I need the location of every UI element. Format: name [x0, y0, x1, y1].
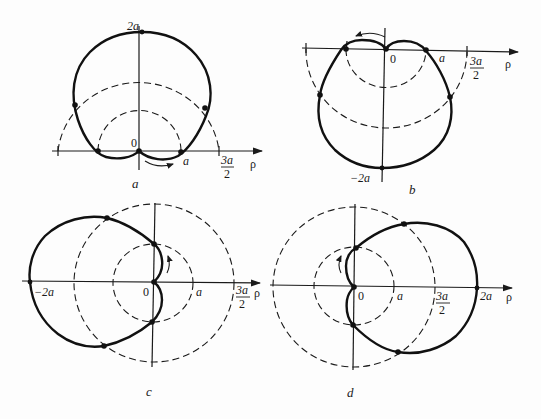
- a-label: a: [397, 289, 403, 303]
- rotation-arrow: [356, 33, 385, 37]
- a-label: a: [183, 154, 189, 168]
- intersection-dot: [95, 148, 101, 154]
- rotation-arrow: [339, 256, 341, 273]
- intersection-dot: [149, 319, 155, 325]
- three-halves-numerator: 3a: [220, 153, 233, 167]
- rotation-arrow: [145, 161, 173, 166]
- vertical-axis: [152, 203, 155, 367]
- origin-label: 0: [390, 52, 396, 66]
- top-label: 2a: [127, 19, 139, 33]
- intersection-dot: [447, 94, 453, 100]
- panel-caption: c: [146, 384, 152, 399]
- three-halves-numerator: 3a: [435, 289, 448, 303]
- intersection-dot: [395, 349, 401, 355]
- top-dot: [140, 30, 145, 35]
- three-halves-denominator: 2: [224, 167, 230, 181]
- inner-reference-circle: [346, 49, 426, 88]
- origin-label: 0: [358, 289, 364, 303]
- panel-caption: b: [409, 182, 416, 197]
- panel-c: 0 a −2a 3a 2 ρ c: [22, 203, 260, 399]
- rho-label: ρ: [250, 157, 256, 171]
- three-halves-denominator: 2: [239, 297, 245, 311]
- a-label: a: [196, 285, 202, 299]
- origin-label: 0: [131, 136, 137, 150]
- origin-dot: [383, 46, 389, 52]
- intersection-dot: [104, 215, 110, 221]
- left-dot: [28, 280, 33, 285]
- left-label: −2a: [34, 285, 54, 299]
- three-halves-denominator: 2: [473, 68, 479, 82]
- rho-label: ρ: [254, 286, 260, 300]
- origin-dot: [136, 148, 142, 154]
- cardioid-curve: [319, 40, 452, 168]
- three-halves-numerator: 3a: [235, 283, 248, 297]
- intersection-dot: [423, 47, 429, 53]
- a-label: a: [439, 51, 445, 65]
- panel-b: 0 a 3a 2 −2a ρ b: [302, 28, 518, 197]
- intersection-dot: [101, 343, 107, 349]
- bottom-dot: [380, 166, 385, 171]
- polar-axis: [22, 281, 260, 283]
- intersection-dot: [72, 102, 78, 108]
- rotation-arrow: [167, 256, 169, 273]
- right-label: 2a: [480, 289, 492, 303]
- origin-label: 0: [143, 285, 149, 299]
- rho-label: ρ: [506, 290, 512, 304]
- three-halves-numerator: 3a: [469, 54, 482, 68]
- intersection-dot: [202, 105, 208, 111]
- right-dot: [475, 286, 480, 291]
- intersection-dot: [350, 322, 356, 328]
- intersection-dot: [343, 46, 349, 52]
- intersection-dot: [353, 245, 359, 251]
- panel-d: 0 a 3a 2 2a ρ d: [270, 204, 512, 400]
- origin-dot: [151, 279, 157, 285]
- polar-axis: [302, 48, 518, 52]
- origin-dot: [351, 284, 357, 290]
- cardioid-figure: 0 a 3a 2 2a ρ a 0 a 3a 2 −2a ρ b: [0, 0, 541, 419]
- three-halves-denominator: 2: [439, 303, 445, 317]
- bottom-label: −2a: [350, 171, 370, 185]
- panel-caption: a: [132, 176, 139, 191]
- intersection-dot: [317, 92, 323, 98]
- intersection-dot: [151, 241, 157, 247]
- rho-label: ρ: [505, 57, 511, 71]
- intersection-dot: [401, 221, 407, 227]
- panel-a: 0 a 3a 2 2a ρ a: [52, 19, 262, 191]
- panel-caption: d: [347, 385, 354, 400]
